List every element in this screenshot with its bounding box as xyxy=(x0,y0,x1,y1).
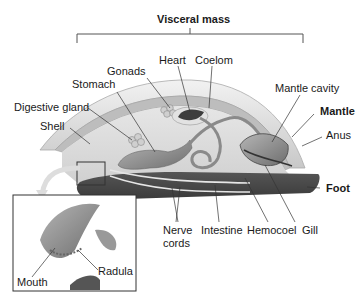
label-cords: cords xyxy=(163,237,190,249)
label-visceral-mass: Visceral mass xyxy=(157,13,230,25)
label-radula: Radula xyxy=(98,265,133,277)
label-heart: Heart xyxy=(159,54,186,66)
visceral-mass-bracket xyxy=(77,28,303,43)
label-coelom: Coelom xyxy=(195,54,233,66)
label-foot: Foot xyxy=(326,182,350,194)
label-anus: Anus xyxy=(326,129,351,141)
label-mantle-cavity: Mantle cavity xyxy=(275,82,339,94)
label-hemocoel: Hemocoel xyxy=(247,224,297,236)
label-gonads: Gonads xyxy=(107,65,146,77)
label-intestine: Intestine xyxy=(201,224,243,236)
label-shell: Shell xyxy=(40,120,64,132)
label-mouth: Mouth xyxy=(17,276,48,288)
label-gill: Gill xyxy=(302,224,318,236)
mollusc-body-plan-illustration xyxy=(0,0,363,302)
label-stomach: Stomach xyxy=(72,78,115,90)
label-mantle: Mantle xyxy=(320,105,355,117)
label-digestive-gland: Digestive gland xyxy=(14,101,89,113)
label-nerve: Nerve xyxy=(163,224,192,236)
